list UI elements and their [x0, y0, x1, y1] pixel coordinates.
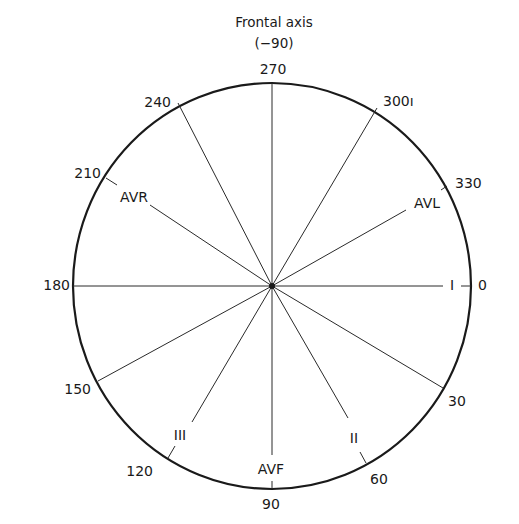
lead-label-avl: AVL — [414, 195, 440, 211]
spoke-150 — [98, 286, 272, 381]
lead-labels: I II AVF III AVR AVL — [120, 189, 454, 477]
spoke-120-tick — [168, 446, 175, 458]
spoke-30 — [272, 286, 443, 388]
spoke-210-tick — [106, 178, 117, 185]
degree-label-150: 150 — [64, 381, 91, 397]
degree-label-0: 0 — [478, 277, 487, 293]
degree-label-90: 90 — [262, 496, 280, 512]
center-point — [269, 283, 275, 289]
degree-label-270: 270 — [260, 61, 287, 77]
degree-label-30: 30 — [448, 393, 466, 409]
spoke-300 — [272, 108, 377, 286]
title-line-2: (−90) — [254, 35, 293, 51]
spoke-60 — [272, 286, 348, 418]
degree-label-300: 300ı — [383, 93, 414, 109]
degree-label-330: 330 — [455, 175, 482, 191]
spoke-240 — [178, 103, 272, 286]
degree-label-210: 210 — [74, 165, 101, 181]
degree-label-60: 60 — [370, 471, 388, 487]
spoke-330 — [272, 210, 406, 286]
lead-label-avr: AVR — [120, 189, 148, 205]
degree-label-180: 180 — [43, 277, 70, 293]
degree-label-240: 240 — [144, 94, 171, 110]
degree-label-120: 120 — [126, 463, 153, 479]
frontal-axis-diagram: Frontal axis (−90) — [0, 0, 519, 524]
spoke-120 — [192, 286, 272, 422]
lead-label-i: I — [450, 277, 454, 293]
lead-label-ii: II — [350, 430, 358, 446]
lead-label-iii: III — [174, 427, 186, 443]
lead-label-avf: AVF — [258, 461, 284, 477]
spoke-60-tick — [360, 452, 366, 463]
spoke-210 — [150, 205, 272, 286]
title-line-1: Frontal axis — [235, 14, 313, 30]
